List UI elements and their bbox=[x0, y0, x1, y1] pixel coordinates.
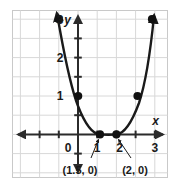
y-tick-label-1: 1 bbox=[57, 89, 64, 103]
x-axis-label: x bbox=[151, 114, 160, 128]
coordinate-plane-svg: 3 2 1 0 1 2 3 x y (1.5, 0) (2, 0) bbox=[0, 0, 180, 186]
y-axis-label: y bbox=[63, 13, 72, 27]
data-point bbox=[148, 15, 156, 23]
x-tick-label-2: 2 bbox=[116, 141, 123, 155]
x-tick-label-3: 3 bbox=[151, 141, 158, 155]
data-point bbox=[74, 92, 82, 100]
origin-label: 0 bbox=[65, 141, 72, 155]
plot-area-border bbox=[13, 11, 168, 178]
data-point-intercept-right bbox=[112, 130, 120, 138]
graph-figure: 3 2 1 0 1 2 3 x y (1.5, 0) (2, 0) bbox=[0, 0, 180, 186]
y-tick-label-3: 3 bbox=[57, 13, 64, 27]
data-point bbox=[133, 92, 141, 100]
annotation-right-intercept: (2, 0) bbox=[122, 164, 148, 176]
y-tick-label-2: 2 bbox=[57, 51, 64, 65]
data-point-intercept-left bbox=[96, 130, 104, 138]
annotation-left-intercept: (1.5, 0) bbox=[63, 164, 98, 176]
